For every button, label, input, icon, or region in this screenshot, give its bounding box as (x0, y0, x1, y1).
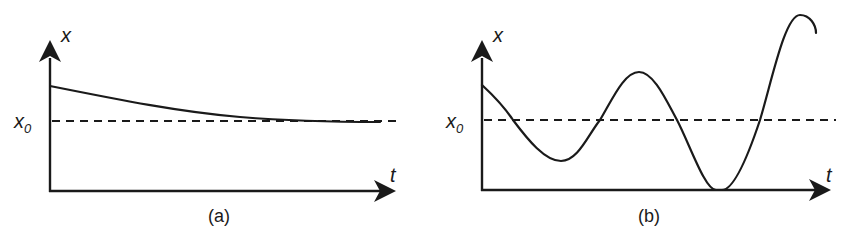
panel-b: x t x0 (b) (445, 15, 836, 226)
panel-b-oscillating-curve (482, 15, 816, 190)
panel-a-y-axis-label: x (60, 24, 72, 46)
panel-a-t-axis-label: t (390, 164, 397, 186)
panel-a-caption: (a) (208, 206, 230, 226)
panel-b-y-axis-label: x (492, 24, 504, 46)
panel-b-t-axis-label: t (826, 164, 833, 186)
panel-a-decay-curve (50, 86, 380, 122)
panel-b-x0-label: x0 (445, 110, 464, 136)
panel-a-x0-label: x0 (13, 110, 32, 136)
panel-b-caption: (b) (638, 206, 660, 226)
figure-canvas: x t x0 (a) x t x0 (b) (0, 0, 845, 243)
panel-a: x t x0 (a) (13, 24, 402, 226)
